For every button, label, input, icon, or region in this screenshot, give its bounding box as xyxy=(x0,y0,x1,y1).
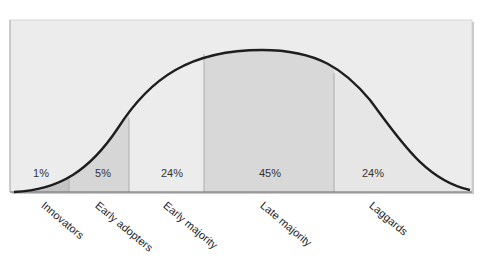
percent-laggards: 24% xyxy=(362,167,384,179)
percent-late-majority: 45% xyxy=(259,167,281,179)
percent-innovators: 1% xyxy=(33,167,49,179)
percent-early-majority: 24% xyxy=(161,167,183,179)
percent-early-adopters: 5% xyxy=(95,167,111,179)
